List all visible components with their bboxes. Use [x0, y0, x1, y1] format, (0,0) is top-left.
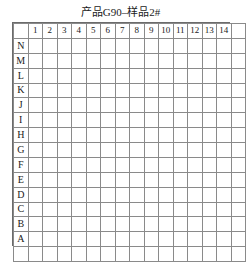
- heatmap-cell-J12: [188, 98, 203, 113]
- heatmap-cell-D4: [72, 187, 87, 202]
- heatmap-cell-I10: [159, 113, 174, 128]
- row-header-D: D: [14, 187, 29, 202]
- heatmap-cell-E2: [43, 172, 58, 187]
- heatmap-cell-L12: [188, 68, 203, 83]
- heatmap-cell-E14: [217, 172, 232, 187]
- heatmap-row-D: D: [14, 187, 246, 202]
- heatmap-cell-N2: [43, 38, 58, 53]
- heatmap-cell-M6: [101, 53, 116, 68]
- heatmap-cell-A9: [144, 232, 159, 247]
- heatmap-cell-E10: [159, 172, 174, 187]
- heatmap-cell-F4: [72, 157, 87, 172]
- heatmap-cell-H5: [86, 128, 101, 143]
- heatmap-cell-C8: [130, 202, 145, 217]
- column-header-10: 10: [159, 24, 174, 39]
- heatmap-cell-B14: [217, 217, 232, 232]
- heatmap-cell-J6: [101, 98, 116, 113]
- heatmap-cell-B2: [43, 217, 58, 232]
- heatmap-cell-H14: [217, 128, 232, 143]
- heatmap-cell-N3: [57, 38, 72, 53]
- heatmap-cell-C10: [159, 202, 174, 217]
- heatmap-cell-I4: [72, 113, 87, 128]
- heatmap-cell-L3: [57, 68, 72, 83]
- heatmap-cell-A6: [101, 232, 116, 247]
- page-title: 产品G90–样品2#: [0, 3, 241, 19]
- heatmap-cell-E8: [130, 172, 145, 187]
- heatmap-cell-F1: [28, 157, 43, 172]
- footer-blank-cell: [14, 247, 29, 262]
- heatmap-cell-N14: [217, 38, 232, 53]
- heatmap-cell-B6: [101, 217, 116, 232]
- heatmap-cell-K6: [101, 83, 116, 98]
- heatmap-cell-J3: [57, 98, 72, 113]
- column-header-7: 7: [115, 24, 130, 39]
- heatmap-cell-A12: [188, 232, 203, 247]
- heatmap-cell-D5: [86, 187, 101, 202]
- heatmap-cell-M11: [173, 53, 188, 68]
- footer-blank-cell: [115, 247, 130, 262]
- heatmap-cell-C14: [217, 202, 232, 217]
- heatmap-cell-N13: [202, 38, 217, 53]
- heatmap-cell-J10: [159, 98, 174, 113]
- heatmap-cell-G13: [202, 143, 217, 158]
- header-trailing-cell: [231, 24, 246, 39]
- heatmap-cell-A1: [28, 232, 43, 247]
- heatmap-cell-D7: [115, 187, 130, 202]
- heatmap-cell-H3: [57, 128, 72, 143]
- row-trailing-cell-G: [231, 143, 246, 158]
- heatmap-cell-D9: [144, 187, 159, 202]
- heatmap-page: 产品G90–样品2# 1234567891011121314NMLKJIHGFE…: [0, 0, 241, 256]
- column-header-2: 2: [43, 24, 58, 39]
- heatmap-row-I: I: [14, 113, 246, 128]
- heatmap-cell-K5: [86, 83, 101, 98]
- row-trailing-cell-I: [231, 113, 246, 128]
- heatmap-cell-B13: [202, 217, 217, 232]
- column-header-3: 3: [57, 24, 72, 39]
- heatmap-cell-L14: [217, 68, 232, 83]
- heatmap-cell-C3: [57, 202, 72, 217]
- heatmap-row-H: H: [14, 128, 246, 143]
- heatmap-cell-L5: [86, 68, 101, 83]
- heatmap-cell-H10: [159, 128, 174, 143]
- heatmap-row-N: N: [14, 38, 246, 53]
- heatmap-cell-K14: [217, 83, 232, 98]
- column-header-4: 4: [72, 24, 87, 39]
- heatmap-cell-E3: [57, 172, 72, 187]
- heatmap-row-K: K: [14, 83, 246, 98]
- row-header-N: N: [14, 38, 29, 53]
- heatmap-cell-G1: [28, 143, 43, 158]
- heatmap-cell-G14: [217, 143, 232, 158]
- heatmap-cell-I11: [173, 113, 188, 128]
- heatmap-cell-B1: [28, 217, 43, 232]
- heatmap-cell-K13: [202, 83, 217, 98]
- heatmap-cell-J7: [115, 98, 130, 113]
- heatmap-cell-L2: [43, 68, 58, 83]
- heatmap-cell-L13: [202, 68, 217, 83]
- heatmap-cell-D12: [188, 187, 203, 202]
- heatmap-row-C: C: [14, 202, 246, 217]
- row-header-G: G: [14, 143, 29, 158]
- heatmap-cell-J14: [217, 98, 232, 113]
- heatmap-cell-E1: [28, 172, 43, 187]
- heatmap-cell-H12: [188, 128, 203, 143]
- heatmap-cell-F5: [86, 157, 101, 172]
- heatmap-cell-D8: [130, 187, 145, 202]
- heatmap-cell-L1: [28, 68, 43, 83]
- heatmap-cell-B10: [159, 217, 174, 232]
- heatmap-cell-I3: [57, 113, 72, 128]
- heatmap-cell-A5: [86, 232, 101, 247]
- heatmap-cell-L9: [144, 68, 159, 83]
- heatmap-cell-C7: [115, 202, 130, 217]
- heatmap-cell-D11: [173, 187, 188, 202]
- heatmap-cell-M14: [217, 53, 232, 68]
- row-trailing-cell-C: [231, 202, 246, 217]
- heatmap-cell-I14: [217, 113, 232, 128]
- column-header-row: 1234567891011121314: [14, 24, 246, 39]
- heatmap-cell-L10: [159, 68, 174, 83]
- heatmap-cell-M3: [57, 53, 72, 68]
- heatmap-cell-K4: [72, 83, 87, 98]
- heatmap-cell-M9: [144, 53, 159, 68]
- heatmap-cell-A13: [202, 232, 217, 247]
- heatmap-cell-N12: [188, 38, 203, 53]
- heatmap-cell-C11: [173, 202, 188, 217]
